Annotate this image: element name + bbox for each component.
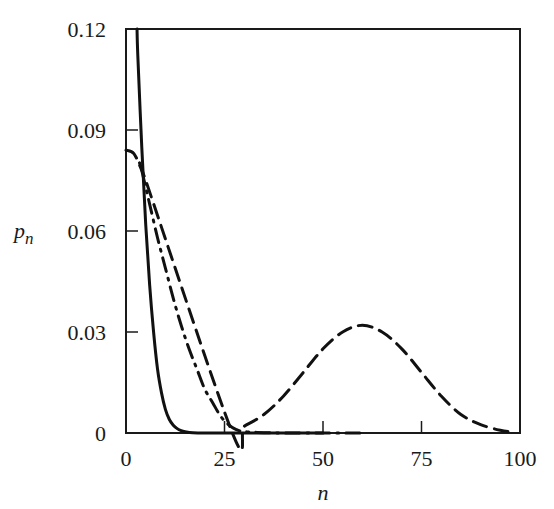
- x-tick-label: 100: [504, 446, 537, 471]
- x-tick-label: 25: [214, 446, 236, 471]
- x-tick-label: 0: [121, 446, 132, 471]
- series-dashed-line: [126, 150, 512, 450]
- y-tick-label: 0.06: [68, 219, 107, 244]
- plot-frame: [126, 29, 520, 433]
- y-tick-label: 0.03: [68, 320, 107, 345]
- y-axis-label-subscript: n: [25, 229, 34, 248]
- series-solid-line: [137, 29, 323, 433]
- y-tick-label: 0.09: [68, 118, 107, 143]
- y-axis-label-base: p: [12, 218, 25, 243]
- x-tick-label: 50: [312, 446, 334, 471]
- x-axis-ticks: 0255075100: [121, 421, 537, 471]
- y-tick-label: 0: [95, 421, 106, 446]
- x-tick-label: 75: [411, 446, 433, 471]
- series-layer: [126, 29, 512, 450]
- y-tick-label: 0.12: [68, 17, 107, 42]
- y-axis-ticks: 00.030.060.090.12: [68, 17, 139, 446]
- chart: 00.030.060.090.12 0255075100 n pn: [0, 0, 554, 509]
- x-axis-label: n: [318, 480, 329, 505]
- y-axis-label: pn: [12, 218, 34, 248]
- series-dash-dot-line: [142, 170, 363, 433]
